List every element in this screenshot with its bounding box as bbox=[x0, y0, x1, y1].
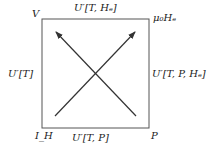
arrow-up-right bbox=[55, 32, 135, 116]
corner-label-bottom-left: I_H bbox=[35, 131, 53, 141]
edge-label-bottom: U′[T, P] bbox=[72, 133, 109, 143]
edge-label-right: U′[T, P, Hₑ] bbox=[152, 69, 206, 79]
edge-label-top: U′[T, Hₑ] bbox=[74, 3, 117, 13]
corner-label-bottom-right: P bbox=[151, 131, 158, 141]
corner-label-top-left: V bbox=[32, 9, 39, 19]
corner-label-top-right: μ₀Hₑ bbox=[153, 13, 176, 23]
edge-label-left: U′[T] bbox=[8, 69, 33, 79]
arrow-up-left bbox=[56, 32, 136, 116]
